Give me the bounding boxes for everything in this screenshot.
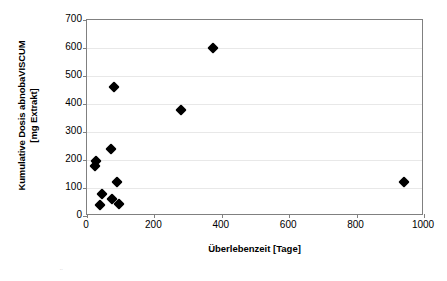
y-axis-title: Kumulative Dosis abnobaVISCUM [mg Extrak… bbox=[10, 14, 44, 216]
x-tick-label: 600 bbox=[258, 219, 318, 231]
y-axis-title-line1: Kumulative Dosis abnobaVISCUM bbox=[16, 40, 28, 190]
gridline bbox=[87, 48, 422, 49]
y-tick-mark bbox=[83, 76, 87, 77]
y-tick-label: 600 bbox=[48, 42, 82, 52]
gridlines bbox=[87, 20, 422, 214]
x-axis-title: Überlebenzeit [Tage] bbox=[86, 243, 423, 254]
y-tick-label: 400 bbox=[48, 98, 82, 108]
x-tick-mark bbox=[87, 214, 88, 218]
gridline bbox=[87, 76, 422, 77]
x-tick-mark bbox=[289, 214, 290, 218]
x-tick-mark bbox=[424, 214, 425, 218]
x-tick-mark bbox=[154, 214, 155, 218]
y-axis-tick-labels: 0100200300400500600700 bbox=[46, 0, 82, 281]
y-tick-label: 300 bbox=[48, 126, 82, 136]
y-tick-mark bbox=[83, 188, 87, 189]
y-tick-mark bbox=[83, 132, 87, 133]
x-tick-label: 400 bbox=[191, 219, 251, 231]
y-tick-mark bbox=[83, 48, 87, 49]
x-tick-label: 1000 bbox=[393, 219, 447, 231]
y-tick-label: 100 bbox=[48, 182, 82, 192]
y-tick-mark bbox=[83, 160, 87, 161]
x-tick-label: 200 bbox=[123, 219, 183, 231]
y-tick-mark bbox=[83, 20, 87, 21]
gridline bbox=[87, 160, 422, 161]
x-tick-mark bbox=[357, 214, 358, 218]
plot-area bbox=[86, 19, 423, 215]
chart-figure: Kumulative Dosis abnobaVISCUM [mg Extrak… bbox=[0, 0, 447, 281]
gridline bbox=[87, 132, 422, 133]
y-axis-title-line2: [mg Extrakt] bbox=[27, 40, 39, 190]
y-tick-label: 500 bbox=[48, 70, 82, 80]
x-tick-label: 800 bbox=[326, 219, 386, 231]
y-tick-label: 700 bbox=[48, 14, 82, 24]
x-axis-tick-labels: 02004006008001000 bbox=[86, 219, 423, 233]
y-tick-label: 200 bbox=[48, 154, 82, 164]
gridline bbox=[87, 188, 422, 189]
y-tick-mark bbox=[83, 104, 87, 105]
x-tick-mark bbox=[222, 214, 223, 218]
page-artifact-glyph: ¨ bbox=[60, 268, 63, 276]
gridline bbox=[87, 104, 422, 105]
x-tick-label: 0 bbox=[56, 219, 116, 231]
